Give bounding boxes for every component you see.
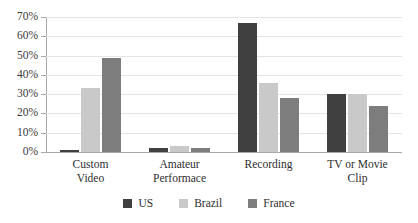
bar-us [238, 23, 257, 152]
y-axis-tick-mark [41, 17, 46, 18]
bar-france [102, 58, 121, 153]
bar-france [369, 106, 388, 152]
y-axis-tick-mark [41, 56, 46, 57]
chart-legend: USBrazilFrance [0, 198, 418, 210]
legend-swatch-icon [248, 199, 257, 208]
legend-item-us[interactable]: US [123, 198, 153, 210]
bar-group [224, 17, 313, 152]
legend-swatch-icon [123, 199, 132, 208]
y-axis-tick-label: 0% [0, 146, 38, 158]
bar-brazil [81, 88, 100, 152]
y-axis-tick-label: 10% [0, 127, 38, 139]
legend-label: US [138, 198, 153, 210]
plot-area [46, 17, 402, 152]
bar-chart: 70%60%50%40%30%20%10%0% CustomVideoAmate… [0, 0, 418, 223]
y-axis-tick-label: 20% [0, 108, 38, 120]
bar-group [135, 17, 224, 152]
y-axis-labels: 70%60%50%40%30%20%10%0% [0, 0, 38, 223]
y-axis-tick-mark [41, 133, 46, 134]
y-axis-tick-label: 60% [0, 31, 38, 43]
bar-brazil [259, 83, 278, 152]
legend-item-brazil[interactable]: Brazil [179, 198, 222, 210]
bar-france [191, 148, 210, 152]
category-label-line: Performace [125, 171, 235, 185]
bar-group [46, 17, 135, 152]
axis-baseline [46, 152, 402, 153]
y-axis-tick-label: 70% [0, 11, 38, 23]
legend-item-france[interactable]: France [248, 198, 294, 210]
legend-swatch-icon [179, 199, 188, 208]
y-axis-tick-mark [41, 36, 46, 37]
bar-us [327, 94, 346, 152]
legend-label: France [263, 198, 294, 210]
y-axis-tick-mark [41, 152, 46, 153]
bar-france [280, 98, 299, 152]
legend-label: Brazil [194, 198, 222, 210]
bar-brazil [348, 94, 367, 152]
y-axis-tick-label: 40% [0, 69, 38, 81]
y-axis-tick-label: 50% [0, 50, 38, 62]
y-axis-tick-mark [41, 94, 46, 95]
y-axis-tick-mark [41, 75, 46, 76]
bar-us [60, 150, 79, 152]
bar-brazil [170, 146, 189, 152]
y-axis-tick-mark [41, 113, 46, 114]
category-label-line: TV or Movie [303, 157, 413, 171]
x-axis-category-label: TV or MovieClip [303, 157, 413, 186]
bar-group [313, 17, 402, 152]
category-label-line: Clip [303, 171, 413, 185]
bar-us [149, 148, 168, 152]
y-axis-tick-label: 30% [0, 88, 38, 100]
